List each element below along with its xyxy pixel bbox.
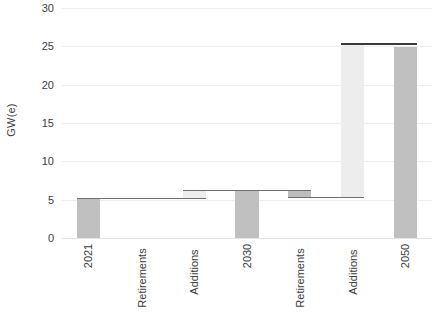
y-axis-title: GW(e) [0,0,22,240]
y-tick-label: 25 [42,40,54,52]
bar-increase-5[interactable] [341,43,364,196]
connector-line-1 [130,198,206,199]
bar-total-0[interactable] [77,198,100,238]
bar-increase-2[interactable] [183,190,206,198]
gridline [62,123,432,124]
gridline [62,238,432,239]
y-tick-label: 10 [42,155,54,167]
bar-total-6[interactable] [394,47,417,238]
gridline [62,46,432,47]
x-axis-label-2: Additions [168,242,221,314]
y-axis-title-label: GW(e) [5,103,17,136]
x-axis-label-text: Retirements [294,248,306,307]
bar-total-3[interactable] [235,190,258,238]
x-axis-labels: 2021RetirementsAdditions2030RetirementsA… [62,240,432,316]
y-axis-ticks: 302520151050 [22,0,60,245]
x-axis-label-text: 2021 [82,244,94,268]
x-axis-label-text: Retirements [135,248,147,307]
gridline [62,161,432,162]
x-axis-label-text: Additions [347,249,359,294]
x-axis-label-text: 2030 [241,244,253,268]
bar-decrease-4[interactable] [288,190,311,197]
connector-line-5 [341,43,417,45]
connector-line-4 [288,197,364,198]
x-axis-label-6: 2050 [379,242,432,314]
x-axis-label-1: Retirements [115,242,168,314]
x-axis-label-text: 2050 [400,244,412,268]
y-tick-label: 15 [42,117,54,129]
gridline [62,85,432,86]
x-axis-label-text: Additions [188,249,200,294]
x-axis-label-3: 2030 [221,242,274,314]
plot-area [62,8,432,238]
x-axis-label-4: Retirements [273,242,326,314]
y-tick-label: 0 [48,232,54,244]
y-tick-label: 30 [42,2,54,14]
x-axis-label-0: 2021 [62,242,115,314]
y-tick-label: 20 [42,79,54,91]
waterfall-chart: GW(e) 302520151050 2021RetirementsAdditi… [0,0,437,316]
gridline [62,8,432,9]
y-tick-label: 5 [48,194,54,206]
x-axis-label-5: Additions [326,242,379,314]
connector-line-3 [235,190,311,191]
